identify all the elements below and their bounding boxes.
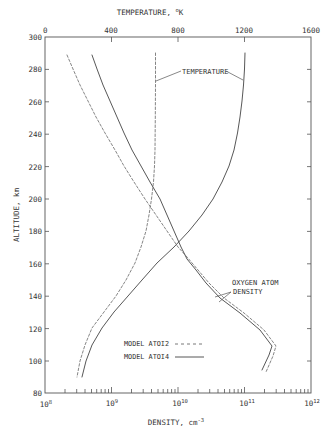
y-tick-label: 100: [28, 357, 42, 366]
y-tick-label: 180: [28, 227, 42, 236]
top-axis-title: TEMPERATURE, oK: [117, 7, 184, 17]
y-tick-label: 140: [28, 292, 42, 301]
y-tick-label: 160: [28, 260, 42, 269]
y-axis-tick-labels: 80 100 120 140 160 180 200 220 240 260 2…: [28, 33, 42, 398]
top-axis-tick-labels: 0 400 800 1200 1600: [43, 26, 321, 35]
chart: TEMPERATURE, oK 0 400 800 1200 1600: [0, 0, 328, 433]
y-tick-label: 300: [28, 33, 42, 42]
svg-text:TEMPERATURE: TEMPERATURE: [182, 68, 228, 76]
svg-text:MODEL ATOI2: MODEL ATOI2: [124, 340, 169, 348]
y-tick-label: 220: [28, 163, 42, 172]
top-tick-label: 1600: [302, 26, 321, 35]
svg-text:MODEL ATOI4: MODEL ATOI4: [124, 353, 169, 361]
temperature-atoi2-curve: [77, 53, 156, 377]
top-tick-label: 400: [104, 26, 118, 35]
x-tick-label: 1010: [172, 398, 188, 408]
x-axis-tick-labels: 108 109 1010 1011 1012: [40, 398, 320, 409]
legend-item-atoi4: MODEL ATOI4: [124, 353, 204, 361]
y-tick-label: 120: [28, 325, 42, 334]
top-axis-ticks: [112, 37, 245, 42]
plot-frame: [45, 37, 311, 393]
x-tick-label: 108: [40, 399, 52, 409]
svg-text:OXYGEN ATOM: OXYGEN ATOM: [232, 279, 278, 287]
y-tick-label: 260: [28, 98, 42, 107]
oxygen-density-atoi2-curve: [67, 55, 276, 372]
svg-text:DENSITY: DENSITY: [233, 288, 263, 296]
oxygen-density-annotation: OXYGEN ATOM DENSITY: [215, 279, 278, 302]
top-tick-label: 1200: [235, 26, 254, 35]
y-axis-ticks: [45, 69, 311, 361]
x-axis-title: DENSITY, cm-3: [148, 417, 204, 427]
y-axis-title: ALTITUDE, km: [12, 187, 21, 242]
oxygen-density-atoi4-curve: [92, 55, 272, 370]
x-axis-ticks: [65, 387, 308, 393]
x-tick-label: 1012: [304, 398, 320, 408]
temperature-atoi4-curve: [82, 53, 245, 377]
y-tick-label: 240: [28, 130, 42, 139]
x-tick-label: 1011: [239, 398, 255, 408]
top-tick-label: 800: [171, 26, 185, 35]
x-tick-label: 109: [106, 398, 118, 408]
y-tick-label: 80: [33, 389, 43, 398]
y-tick-label: 280: [28, 65, 42, 74]
temperature-annotation: TEMPERATURE: [156, 68, 243, 81]
legend-item-atoi2: MODEL ATOI2: [124, 340, 204, 348]
top-tick-label: 0: [43, 26, 48, 35]
y-tick-label: 200: [28, 195, 42, 204]
legend: MODEL ATOI2 MODEL ATOI4: [124, 340, 204, 361]
